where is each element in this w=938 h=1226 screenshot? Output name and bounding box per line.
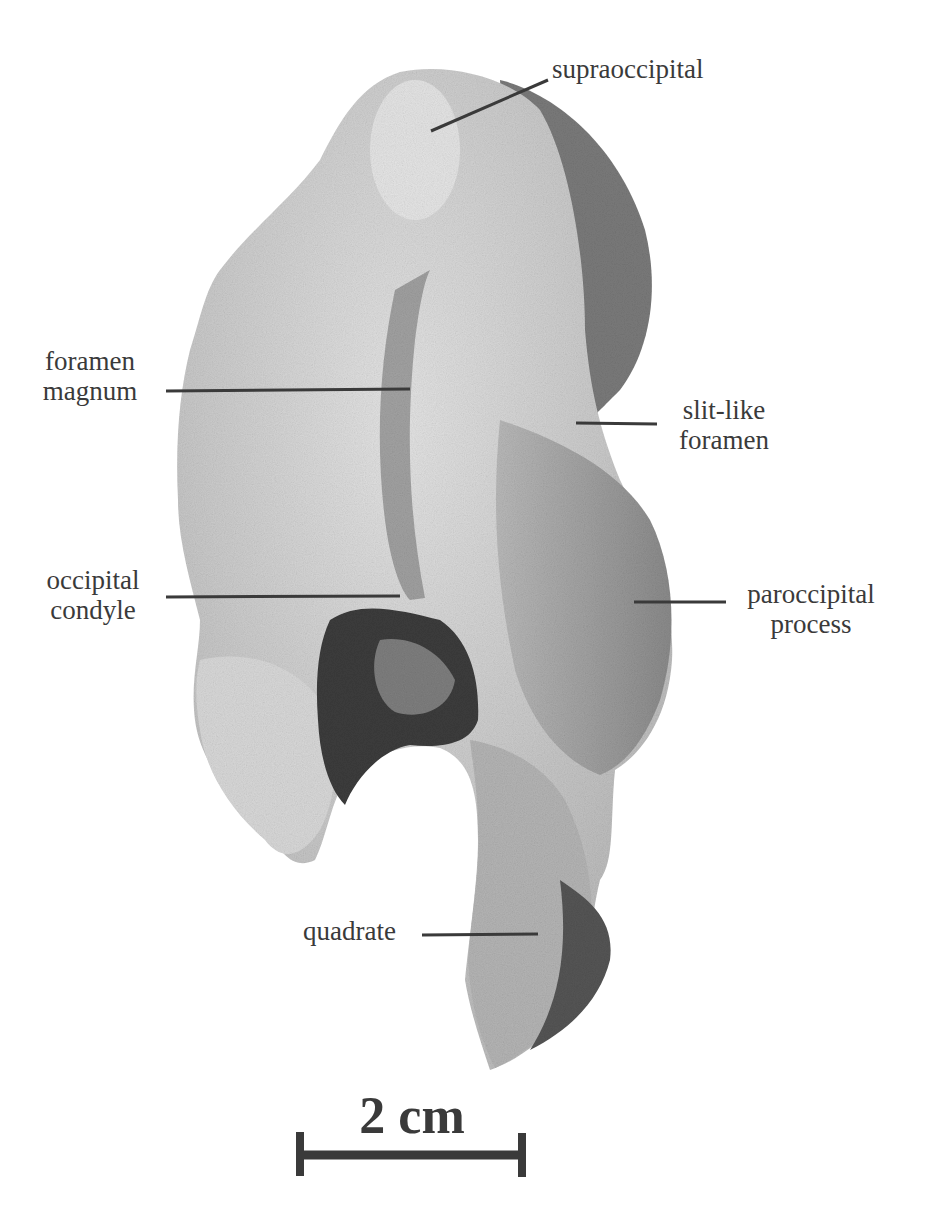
label-line: condyle (20, 595, 166, 625)
leader-line-quadrate (422, 934, 538, 935)
leader-line-slit-like-foramen (576, 423, 657, 424)
leader-line-foramen-magnum (166, 389, 410, 391)
scale-bar-label: 2 cm (300, 1088, 524, 1144)
label-foramen-magnum: foramen magnum (20, 346, 160, 406)
label-line: process (730, 609, 892, 639)
label-quadrate: quadrate (303, 916, 396, 946)
label-slit-like-foramen: slit-like foramen (664, 395, 784, 455)
label-line: occipital (20, 565, 166, 595)
label-line: supraoccipital (552, 54, 703, 84)
label-supraoccipital: supraoccipital (552, 54, 703, 84)
label-line: slit-like (664, 395, 784, 425)
supraoccipital-knob (370, 80, 460, 220)
label-line: magnum (20, 376, 160, 406)
label-line: foramen (20, 346, 160, 376)
label-line: quadrate (303, 916, 396, 946)
leader-line-occipital-condyle (166, 596, 400, 597)
figure: supraoccipital foramen magnum slit-like … (0, 0, 938, 1226)
label-occipital-condyle: occipital condyle (20, 565, 166, 625)
label-line: foramen (664, 425, 784, 455)
label-line: paroccipital (730, 579, 892, 609)
label-paroccipital-process: paroccipital process (730, 579, 892, 639)
